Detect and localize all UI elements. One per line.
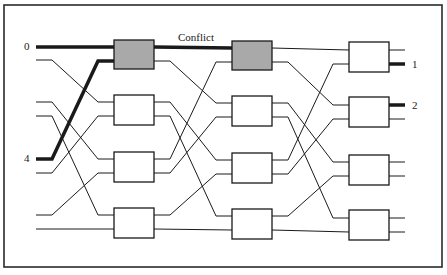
interstage-wire <box>272 176 349 216</box>
input-0-label: 0 <box>24 40 30 52</box>
interstage-wire <box>154 174 232 215</box>
switch-box-conflict-c0-b0 <box>114 40 154 69</box>
omega-network-diagram: Conflict 0 4 1 2 <box>0 0 447 275</box>
highlight-path-conflict <box>154 47 232 48</box>
switch-box-c1-b1 <box>232 96 272 126</box>
switch-box-c0-b3 <box>114 208 154 238</box>
switch-box-c2-b2 <box>349 155 389 185</box>
switch-network-canvas: Conflict 0 4 1 2 <box>0 0 447 275</box>
switch-boxes <box>114 40 389 240</box>
switch-box-c2-b1 <box>349 97 389 127</box>
switch-box-c1-b3 <box>232 209 272 239</box>
switch-box-c0-b1 <box>114 95 154 125</box>
input-4-label: 4 <box>24 152 30 164</box>
interstage-wire <box>154 229 232 230</box>
switch-box-c2-b3 <box>349 210 389 240</box>
switch-box-conflict-c1-b0 <box>232 41 272 70</box>
interstage-wire <box>272 230 349 232</box>
interstage-wire <box>272 48 349 50</box>
output-1-label: 1 <box>412 58 418 70</box>
switch-box-c2-b0 <box>349 42 389 72</box>
interstage-wire <box>154 117 232 173</box>
interstage-wire <box>154 61 232 103</box>
switch-box-c0-b2 <box>114 152 154 182</box>
input-wire <box>36 60 114 102</box>
conflict-label: Conflict <box>178 31 214 43</box>
interstage-wire <box>272 62 349 105</box>
switch-box-c1-b2 <box>232 153 272 183</box>
interstage-wire <box>272 64 349 160</box>
output-2-label: 2 <box>412 99 418 111</box>
interstage-wire <box>272 119 349 174</box>
input-wire <box>36 173 114 215</box>
